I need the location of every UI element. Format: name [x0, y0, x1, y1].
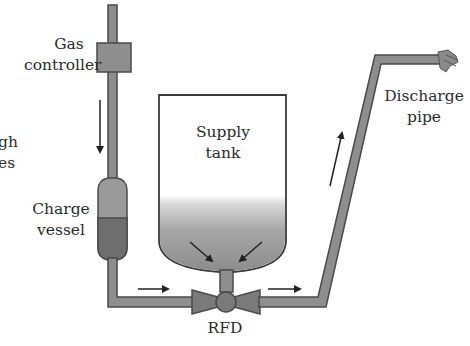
label-charge-vessel: Charge vessel	[26, 199, 96, 241]
charge-vessel	[98, 178, 127, 260]
label-discharge-pipe: Discharge pipe	[380, 86, 468, 128]
gas-controller	[97, 43, 131, 72]
label-gas-controller: Gas controller	[24, 34, 96, 76]
flow-arrow-up-icon	[330, 133, 342, 186]
label-supply-tank: Supply tank	[188, 122, 258, 164]
label-cutoff-left: gh es	[0, 132, 18, 174]
rfd-valve	[192, 290, 260, 314]
label-rfd: RFD	[198, 318, 252, 339]
